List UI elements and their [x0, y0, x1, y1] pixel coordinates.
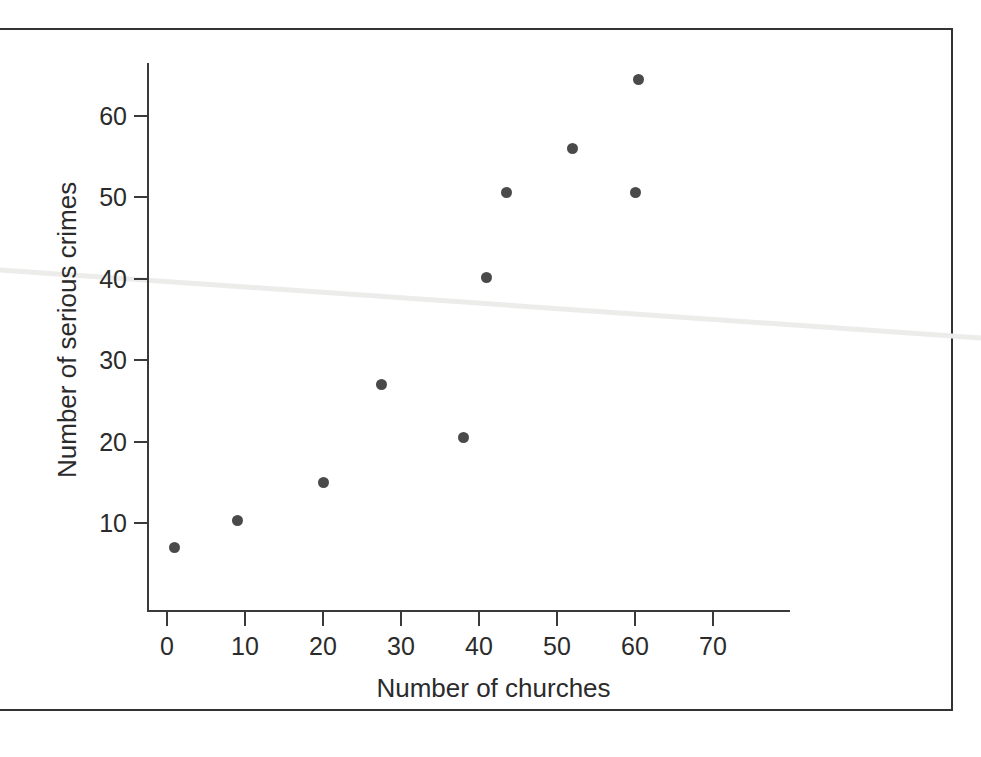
x-axis-tick-label: 50 [543, 632, 571, 661]
y-axis-tick [134, 278, 147, 280]
y-axis-tick [134, 441, 147, 443]
scatter-point [169, 542, 180, 553]
scatter-point [630, 187, 641, 198]
x-axis-tick [400, 612, 402, 626]
scatter-point [232, 515, 243, 526]
y-axis-tick [134, 115, 147, 117]
scatter-point [458, 432, 469, 443]
y-axis-tick-label: 20 [52, 427, 127, 456]
x-axis-tick-label: 0 [160, 632, 174, 661]
y-axis-tick [134, 522, 147, 524]
x-axis-tick-label: 30 [387, 632, 415, 661]
y-axis-tick [134, 359, 147, 361]
x-axis-tick [322, 612, 324, 626]
y-axis-line [147, 63, 149, 610]
scatter-point [376, 379, 387, 390]
x-axis-title: Number of churches [376, 673, 610, 704]
y-axis-tick-label: 60 [52, 102, 127, 131]
x-axis-tick [712, 612, 714, 626]
x-axis-tick [634, 612, 636, 626]
scatter-point [501, 187, 512, 198]
y-axis-tick-label: 50 [52, 183, 127, 212]
x-axis-tick-label: 20 [309, 632, 337, 661]
y-axis-tick-label: 40 [52, 264, 127, 293]
x-axis-tick-label: 10 [231, 632, 259, 661]
y-axis-tick-label: 30 [52, 346, 127, 375]
scatter-plot: Number of serious crimes Number of churc… [0, 0, 981, 757]
scatter-point [633, 74, 644, 85]
scatter-point [318, 477, 329, 488]
scanned-figure-page: Number of serious crimes Number of churc… [0, 0, 981, 757]
scatter-point [481, 272, 492, 283]
x-axis-tick [478, 612, 480, 626]
x-axis-tick [244, 612, 246, 626]
x-axis-tick-label: 60 [621, 632, 649, 661]
x-axis-tick [166, 612, 168, 626]
x-axis-tick-label: 70 [699, 632, 727, 661]
scatter-point [567, 143, 578, 154]
x-axis-tick-label: 40 [465, 632, 493, 661]
x-axis-tick [556, 612, 558, 626]
y-axis-tick [134, 196, 147, 198]
y-axis-tick-label: 10 [52, 509, 127, 538]
